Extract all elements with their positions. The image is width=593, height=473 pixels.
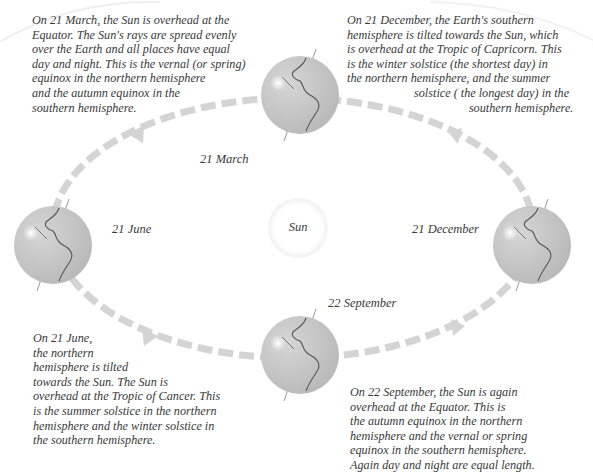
label-22-september: 22 September [328, 296, 396, 311]
label-21-december: 21 December [412, 222, 479, 237]
label-21-june: 21 June [112, 222, 151, 237]
earth-globe-icon [13, 205, 93, 285]
globe-september [260, 315, 340, 395]
arrow-icon [128, 125, 144, 143]
globe-june [13, 205, 93, 285]
sun: Sun [268, 198, 328, 258]
globe-march [260, 55, 340, 135]
description-22-september: On 22 September, the Sun is again overhe… [350, 385, 535, 473]
description-21-june: On 21 June, the northern hemisphere is t… [33, 331, 220, 448]
earth-globe-icon [492, 205, 572, 285]
sun-label: Sun [268, 220, 328, 235]
earth-globe-icon [260, 315, 340, 395]
description-21-december: On 21 December, the Earth's southern hem… [347, 13, 573, 115]
globe-december [492, 205, 572, 285]
description-21-march: On 21 March, the Sun is overhead at the … [32, 13, 246, 115]
earth-globe-icon [260, 55, 340, 135]
label-21-march: 21 March [200, 152, 249, 167]
